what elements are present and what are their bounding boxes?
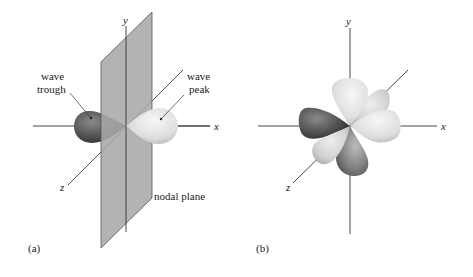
wave-peak-label-2: peak xyxy=(189,83,210,95)
wave-peak-label-1: wave xyxy=(187,70,210,82)
panel-a-label: (a) xyxy=(28,242,41,255)
peak-dot xyxy=(160,118,162,120)
z-axis-label: z xyxy=(59,181,65,193)
z-axis-label: z xyxy=(285,181,291,193)
x-axis-label: x xyxy=(440,120,446,132)
orbital-figure: y x z wave trough wave peak nodal plane … xyxy=(0,0,473,277)
panel-b: y x z (b) xyxy=(256,15,446,255)
panel-a: y x z wave trough wave peak nodal plane … xyxy=(28,12,219,255)
trough-dot xyxy=(90,117,92,119)
y-axis-label: y xyxy=(122,14,128,26)
wave-trough-label-1: wave xyxy=(41,70,64,82)
wave-trough-label-2: trough xyxy=(37,83,66,95)
x-axis-label: x xyxy=(213,120,219,132)
trough-leader xyxy=(70,93,90,117)
y-axis-label: y xyxy=(345,15,351,27)
nodal-plane-label: nodal plane xyxy=(154,190,205,202)
panel-b-label: (b) xyxy=(256,242,269,255)
